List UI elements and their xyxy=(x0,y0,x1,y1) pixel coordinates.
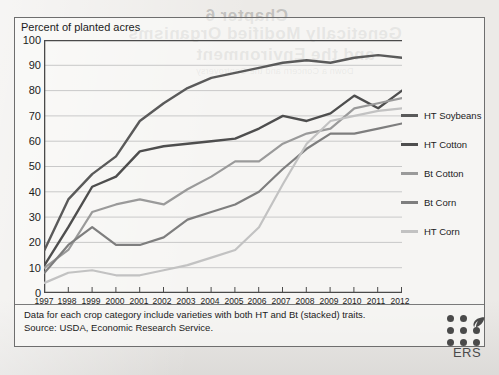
series-layer xyxy=(45,55,403,283)
y-tick-label: 10 xyxy=(15,262,41,274)
notes-divider xyxy=(15,304,484,305)
y-tick-label: 70 xyxy=(15,110,41,122)
legend-label-ht-soybeans: HT Soybeans xyxy=(424,110,481,121)
chart-notes: Data for each crop category include vari… xyxy=(24,309,365,334)
legend-item-ht-corn[interactable]: HT Corn xyxy=(401,226,460,237)
chart-svg xyxy=(44,40,402,293)
legend-item-bt-corn[interactable]: Bt Corn xyxy=(401,197,456,208)
note-line-1: Data for each crop category include vari… xyxy=(24,309,365,322)
logo-dot xyxy=(460,315,467,322)
y-tick-label: 80 xyxy=(15,84,41,96)
legend-item-ht-cotton[interactable]: HT Cotton xyxy=(401,139,467,150)
logo-dot xyxy=(473,327,480,334)
chart-frame: Percent of planted acres 100 90 80 70 60… xyxy=(14,17,485,347)
logo-dot xyxy=(460,327,467,334)
logo-dot xyxy=(447,327,454,334)
legend-swatch-ht-soybeans xyxy=(401,114,418,117)
series-line-ht-soybeans xyxy=(45,55,403,250)
legend-label-ht-cotton: HT Cotton xyxy=(424,139,467,150)
y-tick-label: 40 xyxy=(15,186,41,198)
legend-item-bt-cotton[interactable]: Bt Cotton xyxy=(401,168,464,179)
y-tick-label: 50 xyxy=(15,160,41,172)
chart-page: Chapter 6 Genetically Modified Organisms… xyxy=(0,0,499,375)
plot-area xyxy=(44,40,402,293)
legend-label-bt-corn: Bt Corn xyxy=(424,197,456,208)
legend-swatch-bt-corn xyxy=(401,201,418,204)
legend-item-ht-soybeans[interactable]: HT Soybeans xyxy=(401,110,481,121)
gridlines xyxy=(44,65,402,267)
ers-logo-text: ERS xyxy=(447,345,487,360)
legend-swatch-bt-cotton xyxy=(401,172,418,175)
legend-swatch-ht-corn xyxy=(401,230,418,233)
ers-logo: ERS xyxy=(447,315,493,365)
y-tick-label: 100 xyxy=(15,34,41,46)
legend-label-ht-corn: HT Corn xyxy=(424,226,460,237)
series-line-bt-corn xyxy=(45,123,403,272)
y-tick-label: 20 xyxy=(15,236,41,248)
legend-label-bt-cotton: Bt Cotton xyxy=(424,168,464,179)
y-axis-title: Percent of planted acres xyxy=(21,21,140,33)
y-tick-label: 90 xyxy=(15,59,41,71)
legend-swatch-ht-cotton xyxy=(401,143,418,146)
logo-dot xyxy=(447,315,454,322)
note-line-2: Source: USDA, Economic Research Service. xyxy=(24,322,365,335)
y-tick-label: 60 xyxy=(15,135,41,147)
y-tick-label: 30 xyxy=(15,211,41,223)
